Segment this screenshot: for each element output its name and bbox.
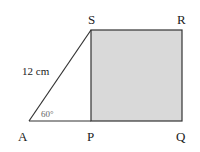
side-length-label: 12 cm xyxy=(22,65,50,77)
square-pqrs xyxy=(91,30,182,121)
label-q: Q xyxy=(176,129,186,144)
label-s: S xyxy=(88,12,95,27)
label-a: A xyxy=(18,129,28,144)
label-r: R xyxy=(177,12,186,27)
label-p: P xyxy=(87,129,94,144)
geometry-diagram: S R A P Q 12 cm 60° xyxy=(0,0,200,152)
angle-label: 60° xyxy=(41,109,54,119)
